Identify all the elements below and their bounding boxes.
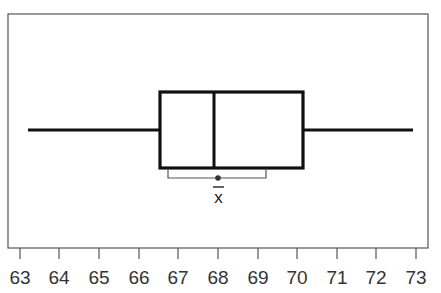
tick-label: 70: [286, 267, 307, 288]
tick-label: 66: [128, 267, 149, 288]
box-plot-chart: x 63 64 65 66 67 68 69 70 71 72 73: [0, 0, 441, 293]
tick-label: 63: [9, 267, 30, 288]
iqr-box: [160, 92, 303, 168]
mean-dot: [215, 175, 221, 181]
tick-label: 64: [48, 267, 70, 288]
x-tick-labels: 63 64 65 66 67 68 69 70 71 72 73: [9, 267, 426, 288]
tick-label: 69: [247, 267, 268, 288]
tick-label: 67: [167, 267, 188, 288]
tick-label: 72: [365, 267, 386, 288]
tick-label: 68: [207, 267, 228, 288]
tick-label: 71: [326, 267, 347, 288]
tick-label: 73: [405, 267, 426, 288]
mean-label: x: [214, 188, 223, 207]
tick-label: 65: [88, 267, 109, 288]
x-axis: [20, 248, 416, 259]
